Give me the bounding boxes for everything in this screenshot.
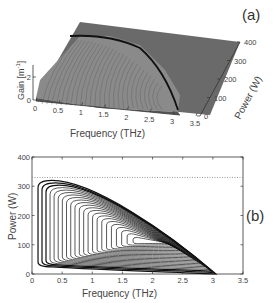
svg-text:400: 400 (17, 153, 30, 162)
svg-text:3.5: 3.5 (190, 119, 200, 128)
svg-text:2.5: 2.5 (144, 115, 154, 124)
svg-text:0: 0 (33, 104, 37, 113)
y-axis-label-b: Power (W) (7, 193, 18, 240)
svg-text:200: 200 (17, 212, 30, 221)
svg-text:2: 2 (150, 276, 154, 285)
svg-text:1: 1 (79, 108, 83, 117)
svg-text:2: 2 (27, 73, 31, 82)
surface-plot-svg: 00.511.522.533.5 0100200300400 02 Freque… (0, 0, 275, 150)
panel-b-contour-plot: 00.511.522.533.5 0100200300400 Frequency… (0, 150, 275, 303)
contour-plot-svg: 00.511.522.533.5 0100200300400 Frequency… (0, 150, 275, 303)
svg-text:0.5: 0.5 (57, 276, 67, 285)
z-axis-label-a: Gain [m-1] (15, 61, 26, 100)
svg-text:3: 3 (170, 117, 174, 126)
svg-text:0.5: 0.5 (53, 106, 63, 115)
z-ticks-a: 02 (27, 73, 36, 105)
panel-label-b: (b) (246, 207, 264, 224)
y-axis-label-a: Power (W) (232, 74, 264, 121)
svg-text:2: 2 (124, 113, 128, 122)
svg-text:300: 300 (17, 182, 30, 191)
svg-text:1.5: 1.5 (98, 110, 108, 119)
svg-text:0: 0 (27, 96, 31, 105)
panel-a-surface-plot: 00.511.522.533.5 0100200300400 02 Freque… (0, 0, 275, 150)
svg-text:0: 0 (204, 112, 208, 121)
svg-text:3: 3 (211, 276, 215, 285)
svg-text:0: 0 (26, 270, 30, 279)
svg-text:2.5: 2.5 (177, 276, 187, 285)
svg-text:200: 200 (224, 75, 237, 84)
svg-text:1: 1 (90, 276, 94, 285)
panel-label-a: (a) (242, 6, 260, 23)
svg-text:3.5: 3.5 (238, 276, 248, 285)
svg-text:300: 300 (234, 57, 247, 66)
svg-text:400: 400 (244, 38, 257, 47)
x-axis-label-b: Frequency (THz) (82, 288, 157, 299)
svg-text:0: 0 (30, 276, 34, 285)
svg-text:1.5: 1.5 (117, 276, 127, 285)
x-axis-label-a: Frequency (THz) (70, 128, 145, 139)
svg-text:100: 100 (17, 241, 30, 250)
svg-text:100: 100 (214, 94, 227, 103)
